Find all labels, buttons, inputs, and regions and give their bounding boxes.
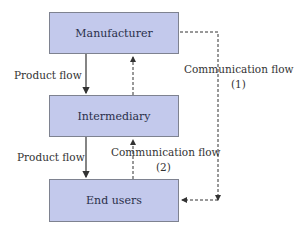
- communication-flow-1-label: Communication flow: [184, 63, 294, 75]
- product-flow-label-1: Product flow: [14, 69, 82, 81]
- manufacturer-node: Manufacturer: [49, 12, 179, 54]
- communication-flow-1-path: [180, 32, 218, 200]
- communication-flow-1-number: (1): [231, 78, 246, 90]
- intermediary-node: Intermediary: [49, 95, 179, 137]
- end-users-label: End users: [86, 194, 142, 207]
- intermediary-label: Intermediary: [77, 110, 150, 123]
- manufacturer-label: Manufacturer: [75, 27, 152, 40]
- end-users-node: End users: [49, 179, 179, 222]
- communication-flow-2-number: (2): [156, 161, 171, 173]
- product-flow-label-2: Product flow: [17, 151, 85, 163]
- communication-flow-2-label: Communication flow: [111, 146, 221, 158]
